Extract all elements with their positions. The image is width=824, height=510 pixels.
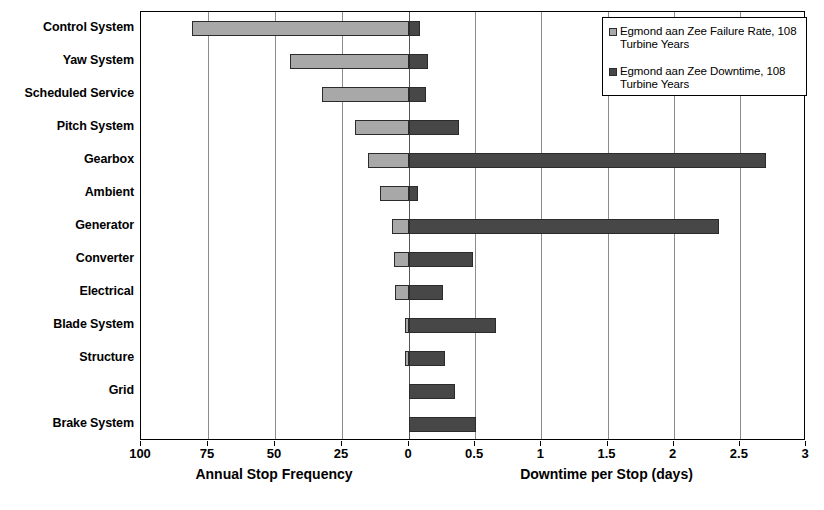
category-axis-labels: Control SystemYaw SystemScheduled Servic…: [0, 11, 134, 440]
category-label-ambient: Ambient: [0, 176, 134, 209]
bar-downtime: [409, 153, 766, 168]
category-label-generator: Generator: [0, 209, 134, 242]
bar-row: [141, 408, 804, 441]
legend-item: Egmond aan Zee Failure Rate, 108 Turbine…: [609, 25, 802, 51]
bar-downtime: [409, 285, 443, 300]
chart-container: Control SystemYaw SystemScheduled Servic…: [0, 0, 824, 510]
bar-downtime: [409, 384, 455, 399]
category-label-brake-system: Brake System: [0, 407, 134, 440]
bar-failure-rate: [395, 285, 409, 300]
bar-row: [141, 144, 804, 177]
bar-failure-rate: [322, 87, 409, 102]
bar-failure-rate: [380, 186, 409, 201]
bar-downtime: [409, 54, 428, 69]
bar-failure-rate: [392, 219, 409, 234]
bar-downtime: [409, 252, 473, 267]
category-label-grid: Grid: [0, 374, 134, 407]
legend-swatch-dark-icon: [609, 68, 617, 76]
legend-item: Egmond aan Zee Downtime, 108 Turbine Yea…: [609, 65, 802, 91]
left-axis-title: Annual Stop Frequency: [195, 466, 352, 482]
right-axis-title: Downtime per Stop (days): [520, 466, 693, 482]
bar-downtime: [409, 219, 719, 234]
bar-failure-rate: [192, 21, 409, 36]
bar-row: [141, 243, 804, 276]
value-axis: 10075502500.511.522.53Annual Stop Freque…: [0, 441, 824, 471]
tick-label-right-2: 2: [669, 446, 676, 461]
tick-label-left-25: 25: [334, 446, 348, 461]
bar-failure-rate: [368, 153, 409, 168]
category-label-scheduled-service: Scheduled Service: [0, 77, 134, 110]
tick-label-right-0.5: 0.5: [465, 446, 483, 461]
category-label-structure: Structure: [0, 341, 134, 374]
legend-swatch-light-icon: [609, 28, 617, 36]
bar-row: [141, 177, 804, 210]
tick-label-right-3: 3: [801, 446, 808, 461]
category-label-converter: Converter: [0, 242, 134, 275]
bar-downtime: [409, 417, 476, 432]
tick-label-right-1: 1: [537, 446, 544, 461]
category-label-electrical: Electrical: [0, 275, 134, 308]
bar-row: [141, 309, 804, 342]
bar-row: [141, 276, 804, 309]
tick-label-left-100: 100: [129, 446, 151, 461]
bar-row: [141, 210, 804, 243]
bar-failure-rate: [394, 252, 409, 267]
bar-downtime: [409, 87, 426, 102]
tick-label-right-2.5: 2.5: [730, 446, 748, 461]
category-label-blade-system: Blade System: [0, 308, 134, 341]
tick-label-left-50: 50: [267, 446, 281, 461]
bar-failure-rate: [290, 54, 409, 69]
bar-row: [141, 342, 804, 375]
bar-downtime: [409, 186, 418, 201]
bar-failure-rate: [355, 120, 409, 135]
bar-downtime: [409, 21, 420, 36]
tick-label-left-75: 75: [200, 446, 214, 461]
bar-downtime: [409, 318, 496, 333]
chart-legend: Egmond aan Zee Failure Rate, 108 Turbine…: [602, 17, 807, 96]
legend-label: Egmond aan Zee Downtime, 108 Turbine Yea…: [620, 65, 802, 91]
bar-downtime: [409, 120, 459, 135]
bar-row: [141, 375, 804, 408]
category-label-gearbox: Gearbox: [0, 143, 134, 176]
legend-label: Egmond aan Zee Failure Rate, 108 Turbine…: [620, 25, 802, 51]
tick-label-right-1.5: 1.5: [597, 446, 615, 461]
category-label-pitch-system: Pitch System: [0, 110, 134, 143]
tick-label-right-0: 0: [404, 446, 411, 461]
category-label-yaw-system: Yaw System: [0, 44, 134, 77]
category-label-control-system: Control System: [0, 11, 134, 44]
bar-downtime: [409, 351, 445, 366]
bar-row: [141, 111, 804, 144]
